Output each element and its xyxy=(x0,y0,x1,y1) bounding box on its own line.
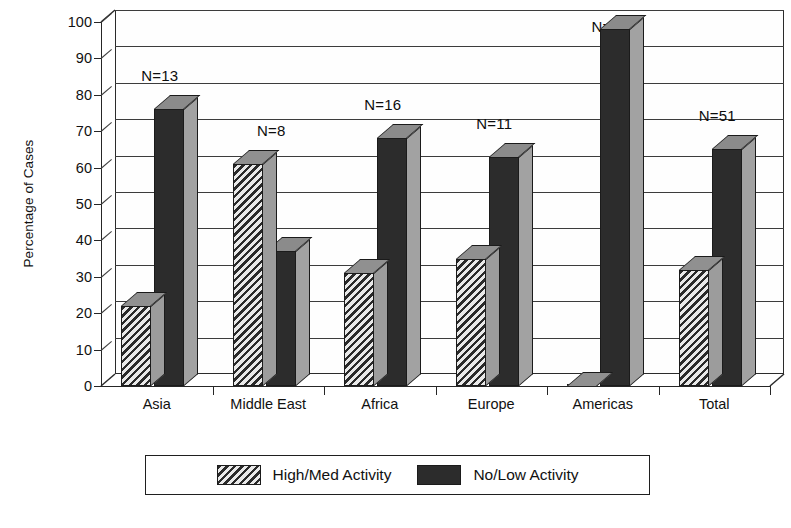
x-axis-tick-label: Americas xyxy=(573,396,633,412)
bar-side-face xyxy=(519,145,533,386)
y-axis-tick-label: 80 xyxy=(76,87,101,103)
bar-side-face xyxy=(630,17,644,386)
x-axis-tick-label: Africa xyxy=(361,396,398,412)
n-annotation: N=16 xyxy=(364,96,401,113)
y-axis-title: Percentage of Cases xyxy=(21,104,36,304)
bar-front-face xyxy=(679,270,709,386)
bar-front-face xyxy=(456,259,486,386)
x-axis-tick-mark xyxy=(213,386,214,395)
legend-label-high-med: High/Med Activity xyxy=(273,466,392,484)
gridline xyxy=(115,192,784,193)
bar-side-face xyxy=(184,97,198,386)
legend-swatch-hatch-icon xyxy=(217,465,261,485)
gridline xyxy=(115,46,784,47)
x-axis-tick-mark xyxy=(324,386,325,395)
chart-legend: High/Med Activity No/Low Activity xyxy=(145,455,650,495)
bar-side-face xyxy=(296,239,310,386)
x-axis: AsiaMiddle EastAfricaEuropeAmericasTotal xyxy=(101,386,770,420)
bar-no-low xyxy=(600,29,630,386)
bar-high-med xyxy=(456,259,486,386)
y-axis-tick-label: 30 xyxy=(76,269,101,285)
x-axis-tick-mark xyxy=(770,386,771,395)
y-axis-tick-label: 20 xyxy=(76,305,101,321)
x-axis-tick-label: Asia xyxy=(143,396,171,412)
y-axis-tick-label: 90 xyxy=(76,50,101,66)
x-axis-tick-label: Middle East xyxy=(230,396,306,412)
gridline xyxy=(115,119,784,120)
bar-front-face xyxy=(121,306,151,386)
x-axis-tick-label: Total xyxy=(699,396,730,412)
bar-front-face xyxy=(600,29,630,386)
gridline xyxy=(115,156,784,157)
legend-label-no-low: No/Low Activity xyxy=(473,466,578,484)
gridline xyxy=(115,10,784,11)
bar-high-med xyxy=(121,306,151,386)
n-annotation: N=13 xyxy=(141,67,178,84)
bar-side-face xyxy=(374,261,388,386)
bar-side-face xyxy=(151,294,165,386)
y-axis-tick-label: 70 xyxy=(76,123,101,139)
bar-side-face xyxy=(709,258,723,386)
legend-item-no-low: No/Low Activity xyxy=(417,465,578,485)
gridline xyxy=(115,228,784,229)
n-annotation: N=51 xyxy=(699,107,736,124)
bar-front-face xyxy=(344,273,374,386)
bar-front-face xyxy=(233,164,263,386)
legend-item-high-med: High/Med Activity xyxy=(217,465,392,485)
x-axis-tick-mark xyxy=(547,386,548,395)
y-axis-tick-label: 50 xyxy=(76,196,101,212)
chart-figure: Percentage of Cases 01020304050607080901… xyxy=(0,0,791,528)
gridline xyxy=(115,83,784,84)
bar-side-face xyxy=(486,247,500,386)
x-axis-tick-label: Europe xyxy=(468,396,515,412)
bar-side-face xyxy=(407,126,421,386)
bar-side-face xyxy=(263,152,277,386)
n-annotation: N=11 xyxy=(476,115,512,132)
plot-area: 0102030405060708090100 N=13N=8N=16N=11N=… xyxy=(101,22,770,386)
plot-left-wall xyxy=(101,22,115,386)
x-axis-tick-mark xyxy=(659,386,660,395)
y-axis-tick-label: 60 xyxy=(76,160,101,176)
y-axis-tick-label: 10 xyxy=(76,342,101,358)
y-axis-tick-label: 100 xyxy=(68,14,101,30)
x-axis-tick-mark xyxy=(436,386,437,395)
bar-high-med xyxy=(344,273,374,386)
y-axis-tick-label: 40 xyxy=(76,232,101,248)
y-axis-tick-label: 0 xyxy=(84,378,101,394)
legend-swatch-solid-icon xyxy=(417,465,461,485)
bar-high-med xyxy=(233,164,263,386)
n-annotation: N=8 xyxy=(257,122,286,139)
bar-side-face xyxy=(742,137,756,386)
bar-high-med xyxy=(679,270,709,386)
